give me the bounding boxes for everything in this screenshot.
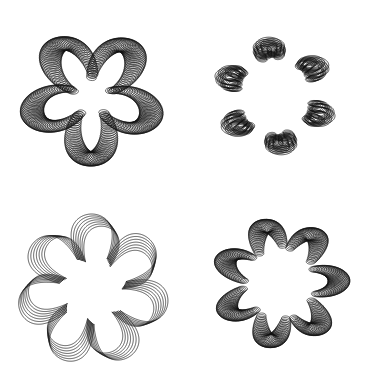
spirograph-canvas (0, 0, 367, 389)
